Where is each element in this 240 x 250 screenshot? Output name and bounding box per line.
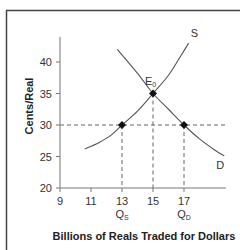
equilibrium-label-subscript: 0 [152, 81, 156, 88]
y-tick-label: 25 [40, 151, 52, 163]
curves [85, 43, 225, 156]
supply-demand-chart: 2025303540911131517 SDE0QSQD Cents/Real … [0, 0, 240, 250]
y-tick-label: 20 [40, 182, 52, 194]
dashed-guides [60, 94, 226, 189]
q-label-subscript: S [124, 214, 129, 221]
demand-curve-label: D [216, 159, 224, 171]
demand-curve [117, 49, 224, 155]
x-tick-label: 17 [178, 195, 190, 207]
supply-curve-label: S [191, 27, 198, 39]
x-tick-label: 13 [116, 195, 128, 207]
x-tick-label: 9 [57, 195, 63, 207]
q-label-subscript: D [186, 214, 191, 221]
y-axis-title: Cents/Real [23, 78, 35, 135]
y-tick-label: 35 [40, 88, 52, 100]
qd-label: QD [177, 208, 191, 221]
y-tick-label: 30 [40, 119, 52, 131]
x-axis-title: Billions of Reals Traded for Dollars [53, 230, 236, 242]
x-tick-label: 15 [147, 195, 159, 207]
labels: SDE0QSQD [115, 27, 224, 221]
qs-label: QS [115, 208, 129, 221]
y-tick-label: 40 [40, 56, 52, 68]
equilibrium-label: E0 [145, 75, 156, 88]
axes: 2025303540911131517 [40, 37, 226, 207]
x-tick-label: 11 [85, 195, 96, 207]
supply-curve [85, 43, 189, 149]
